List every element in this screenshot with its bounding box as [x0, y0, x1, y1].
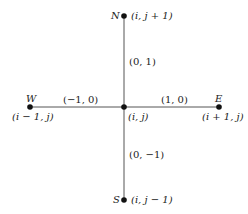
node-west: [27, 104, 33, 110]
south-letter: S: [113, 195, 120, 205]
west-letter: W: [26, 94, 36, 104]
south-coord: (i, j − 1): [131, 195, 173, 205]
east-edge-label: (1, 0): [161, 95, 188, 105]
west-edge-label: (−1, 0): [63, 95, 98, 105]
node-north: [121, 13, 127, 19]
south-edge-label: (0, −1): [129, 150, 164, 160]
north-coord: (i, j + 1): [131, 11, 173, 21]
node-south: [121, 197, 127, 203]
east-letter: E: [215, 94, 222, 104]
north-letter: N: [111, 11, 120, 21]
east-coord: (i + 1, j): [202, 112, 244, 122]
north-edge-label: (0, 1): [129, 57, 156, 67]
node-east: [216, 104, 222, 110]
center-coord: (i, j): [128, 112, 148, 122]
stencil-diagram: [0, 0, 248, 214]
node-center: [121, 104, 127, 110]
west-coord: (i − 1, j): [12, 112, 54, 122]
